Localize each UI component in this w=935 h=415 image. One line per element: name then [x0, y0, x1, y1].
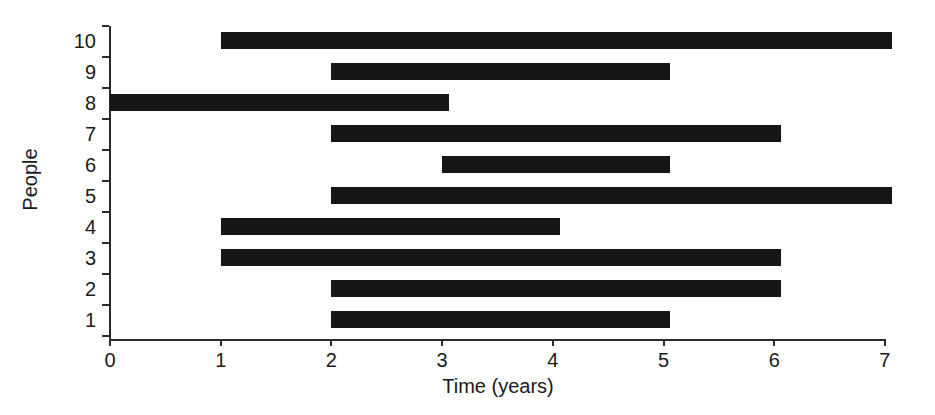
y-tick-3 — [102, 242, 109, 244]
y-tick-label-2: 2 — [56, 278, 96, 300]
y-tick-10 — [102, 25, 109, 27]
x-tick-label-5: 5 — [644, 348, 684, 372]
x-tick-4 — [552, 339, 554, 346]
y-tick-6 — [102, 149, 109, 151]
y-axis-title: People — [19, 120, 42, 240]
y-tick-label-8: 8 — [56, 92, 96, 114]
x-tick-0 — [109, 339, 111, 346]
x-tick-3 — [441, 339, 443, 346]
y-tick-label-4: 4 — [56, 216, 96, 238]
y-tick-5 — [102, 180, 109, 182]
x-tick-label-0: 0 — [90, 348, 130, 372]
x-axis-title: Time (years) — [110, 375, 886, 398]
y-tick-label-9: 9 — [56, 61, 96, 83]
bar-person-10 — [221, 32, 892, 49]
y-tick-label-1: 1 — [56, 309, 96, 331]
x-tick-6 — [773, 339, 775, 346]
bar-person-4 — [221, 218, 560, 235]
y-tick-1 — [102, 304, 109, 306]
x-tick-label-7: 7 — [865, 348, 905, 372]
bar-person-2 — [331, 280, 781, 297]
y-tick-8 — [102, 87, 109, 89]
x-tick-label-1: 1 — [201, 348, 241, 372]
y-tick-2 — [102, 273, 109, 275]
y-tick-baseline — [102, 335, 109, 337]
y-tick-label-10: 10 — [56, 30, 96, 52]
bar-person-9 — [331, 63, 670, 80]
y-tick-label-3: 3 — [56, 247, 96, 269]
bar-person-3 — [221, 249, 782, 266]
bar-person-1 — [331, 311, 670, 328]
x-axis-line — [110, 339, 886, 341]
gantt-chart: 01234567 12345678910 Time (years) People — [0, 0, 935, 415]
plot-area: 01234567 12345678910 Time (years) People — [0, 0, 935, 415]
x-tick-label-6: 6 — [754, 348, 794, 372]
x-tick-7 — [884, 339, 886, 346]
y-tick-label-5: 5 — [56, 185, 96, 207]
x-tick-5 — [663, 339, 665, 346]
x-tick-1 — [220, 339, 222, 346]
y-tick-label-6: 6 — [56, 154, 96, 176]
x-tick-label-4: 4 — [533, 348, 573, 372]
y-axis-line — [109, 26, 111, 341]
y-tick-4 — [102, 211, 109, 213]
y-tick-9 — [102, 56, 109, 58]
x-tick-2 — [330, 339, 332, 346]
y-tick-7 — [102, 118, 109, 120]
bar-person-8 — [110, 94, 449, 111]
bar-person-6 — [442, 156, 670, 173]
y-tick-label-7: 7 — [56, 123, 96, 145]
bar-person-5 — [331, 187, 892, 204]
x-tick-label-3: 3 — [422, 348, 462, 372]
x-tick-label-2: 2 — [311, 348, 351, 372]
bar-person-7 — [331, 125, 781, 142]
